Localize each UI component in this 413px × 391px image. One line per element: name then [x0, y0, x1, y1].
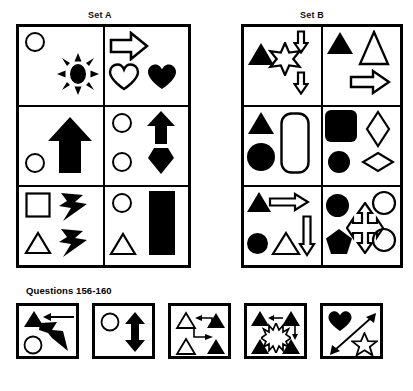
set-b-cell-row1-col2 [323, 27, 400, 105]
set-b-cell-row2-col2 [323, 107, 400, 185]
diamond-tall-outline-icon [365, 110, 391, 148]
circle-outline-icon [371, 227, 397, 253]
option-e[interactable] [320, 303, 383, 359]
set-a-cell-row2-col1 [19, 107, 103, 185]
option-d[interactable] [244, 303, 307, 359]
double-arrow-diagonal-thin-icon [327, 312, 379, 356]
triangle-outline-icon [271, 231, 301, 256]
heart-outline-icon [108, 63, 140, 91]
arrow-left-thin-icon [268, 313, 284, 323]
set-b-title: Set B [300, 10, 324, 20]
double-arrow-vertical-filled-icon [123, 311, 147, 353]
arrow-right-outline-icon [268, 192, 310, 212]
circle-outline-icon [24, 31, 46, 53]
circle-outline-icon [111, 192, 133, 214]
sunburst-filled-icon [57, 53, 99, 95]
rounded-square-filled-icon [325, 110, 357, 142]
set-b-matrix [241, 24, 403, 268]
zigzag-arrow-right-icon [192, 324, 216, 342]
answer-options-row [16, 303, 383, 359]
set-b-cell-row3-col2 [323, 187, 400, 265]
set-a-cell-row3-col1 [19, 187, 103, 265]
arrow-down-outline-icon [293, 30, 309, 54]
set-a-title: Set A [88, 10, 112, 20]
questions-label: Questions 156-160 [26, 285, 112, 296]
set-a-cell-row3-col2 [105, 187, 189, 265]
arrow-down-thin-icon [290, 325, 300, 341]
circle-outline-icon [111, 151, 133, 173]
circle-outline-icon [100, 312, 120, 332]
set-a-cell-row2-col2 [105, 107, 189, 185]
heart-filled-icon [146, 63, 178, 91]
set-a-cell-row1-col1 [19, 27, 103, 105]
circle-filled-icon [246, 232, 269, 255]
circle-outline-icon [111, 112, 133, 134]
rounded-rect-outline-icon [280, 112, 310, 174]
triangle-outline-icon [358, 30, 390, 66]
circle-outline-icon [23, 335, 43, 355]
triangle-filled-icon [247, 111, 275, 135]
arrow-right-outline-icon [109, 31, 149, 61]
circle-filled-icon [327, 150, 351, 174]
arrow-down-outline-icon [298, 215, 316, 257]
set-b-cell-row2-col1 [244, 107, 321, 185]
circle-outline-icon [24, 152, 46, 174]
set-a-cell-row1-col2 [105, 27, 189, 105]
option-c[interactable] [168, 303, 231, 359]
hexagon-filled-icon [147, 147, 175, 175]
circle-filled-icon [246, 142, 276, 172]
triangle-filled-icon [326, 31, 354, 55]
rectangle-filled-icon [149, 191, 175, 255]
set-b-cell-row3-col1 [244, 187, 321, 265]
arrow-down-outline-icon [293, 71, 309, 95]
option-b[interactable] [92, 303, 155, 359]
triangle-outline-icon [24, 231, 52, 255]
option-a[interactable] [16, 303, 79, 359]
sunburst-outline-icon [261, 323, 291, 353]
arrow-right-outline-icon [349, 69, 391, 95]
set-a-matrix [16, 24, 191, 268]
triangle-outline-icon [109, 232, 137, 256]
arrow-up-filled-icon [145, 110, 177, 145]
lightning-filled-icon [57, 191, 91, 223]
circle-outline-icon [371, 190, 397, 216]
lightning-filled-icon [57, 227, 91, 259]
square-outline-icon [25, 192, 51, 218]
set-b-cell-row1-col1 [244, 27, 321, 105]
arrow-up-filled-icon [46, 115, 94, 175]
diamond-wide-outline-icon [361, 151, 395, 173]
